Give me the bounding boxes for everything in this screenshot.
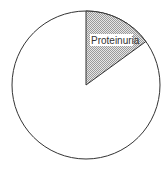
pie-chart: Proteinuria (0, 0, 166, 173)
slice-label-proteinuria: Proteinuria (91, 35, 140, 46)
